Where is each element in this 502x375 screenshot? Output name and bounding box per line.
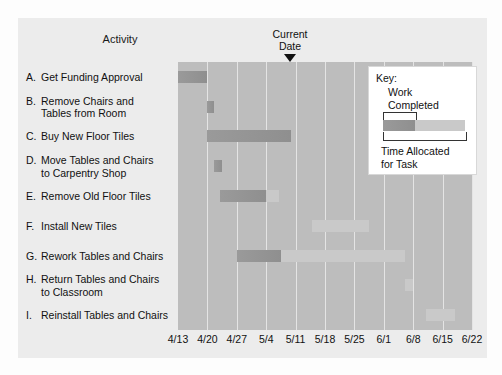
gridline [354, 62, 355, 330]
legend-work-line1: Work [388, 86, 439, 99]
legend-sample-bar [383, 120, 465, 131]
current-date-triangle-icon [284, 54, 296, 62]
gantt-bar-completed [178, 71, 207, 83]
gantt-bar [220, 190, 279, 202]
activity-name: Get Funding Approval [41, 71, 176, 84]
gantt-bar-completed [207, 101, 213, 113]
gantt-bar-remaining [426, 309, 455, 321]
activity-name: Buy New Floor Tiles [41, 130, 176, 143]
gantt-bar-remaining [281, 250, 405, 262]
activity-name: Remove Chairs andTables from Room [41, 95, 176, 120]
gantt-bar-remaining [405, 279, 413, 291]
gantt-bar-completed [214, 160, 222, 172]
activity-name-line1: Install New Tiles [41, 220, 176, 233]
axis-tick-label: 6/22 [452, 333, 492, 345]
legend-title: Key: [376, 72, 397, 84]
activity-letter: G. [26, 250, 40, 263]
legend-box: Key: Work Completed Time Allocated for T… [368, 66, 477, 175]
legend-time-allocated-label: Time Allocated for Task [381, 145, 449, 170]
gantt-bar-completed [220, 190, 266, 202]
gantt-bar [312, 220, 369, 232]
gantt-bar [207, 130, 291, 142]
activity-name-line1: Buy New Floor Tiles [41, 130, 176, 143]
activity-letter: H. [26, 273, 40, 286]
legend-bracket-allocated [383, 132, 467, 141]
activity-letter: I. [26, 309, 40, 322]
gridline [325, 62, 326, 330]
activity-name: Reinstall Tables and Chairs [41, 309, 176, 322]
legend-alloc-line2: for Task [381, 158, 449, 171]
gantt-bar [405, 279, 413, 291]
activity-name-line1: Rework Tables and Chairs [41, 250, 176, 263]
activity-name-line1: Reinstall Tables and Chairs [41, 309, 176, 322]
activity-name-line1: Remove Chairs and [41, 95, 176, 108]
current-date-line2: Date [252, 40, 328, 52]
activity-name: Return Tables and Chairsto Classroom [41, 273, 176, 298]
gantt-bar-completed [207, 130, 291, 142]
activity-label-column: A.Get Funding ApprovalB.Remove Chairs an… [26, 66, 176, 330]
gantt-bar [237, 250, 405, 262]
activity-letter: C. [26, 130, 40, 143]
activity-letter: B. [26, 95, 40, 108]
current-date-line1: Current [252, 28, 328, 40]
activity-name: Remove Old Floor Tiles [41, 190, 176, 203]
gantt-bar [426, 309, 455, 321]
activity-name-line2: to Carpentry Shop [41, 167, 176, 180]
activity-name-line1: Get Funding Approval [41, 71, 176, 84]
legend-alloc-line1: Time Allocated [381, 145, 449, 158]
gantt-bar-remaining [312, 220, 369, 232]
current-date-annotation: Current Date [252, 28, 328, 52]
gantt-bar [178, 71, 207, 83]
activity-column-header: Activity [60, 33, 180, 45]
activity-letter: E. [26, 190, 40, 203]
activity-name-line1: Move Tables and Chairs [41, 154, 176, 167]
activity-name: Rework Tables and Chairs [41, 250, 176, 263]
activity-name-line1: Return Tables and Chairs [41, 273, 176, 286]
activity-letter: A. [26, 71, 40, 84]
legend-work-completed-label: Work Completed [388, 86, 439, 111]
gantt-bar [214, 160, 222, 172]
activity-name-line2: Tables from Room [41, 107, 176, 120]
activity-letter: D. [26, 154, 40, 167]
activity-name: Install New Tiles [41, 220, 176, 233]
activity-letter: F. [26, 220, 40, 233]
gridline [296, 62, 297, 330]
legend-bracket-completed [383, 112, 417, 120]
gantt-bar-remaining [266, 190, 279, 202]
legend-sample-bar-completed [383, 120, 415, 131]
date-axis: 4/134/204/275/45/115/185/256/16/86/156/2… [178, 333, 472, 349]
activity-name-line2: to Classroom [41, 286, 176, 299]
gantt-bar [207, 101, 213, 113]
gantt-bar-completed [237, 250, 281, 262]
gantt-chart-figure: Activity Current Date A.Get Funding Appr… [0, 0, 502, 375]
activity-name: Move Tables and Chairsto Carpentry Shop [41, 154, 176, 179]
legend-work-line2: Completed [388, 99, 439, 112]
activity-name-line1: Remove Old Floor Tiles [41, 190, 176, 203]
